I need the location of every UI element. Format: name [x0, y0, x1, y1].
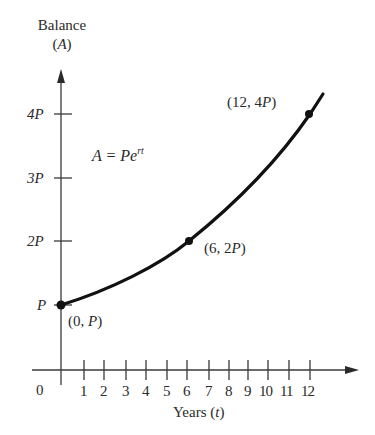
paren-close: ) — [67, 36, 72, 52]
chart-canvas — [0, 0, 375, 435]
y-tick-label-2P: 2P — [27, 234, 44, 249]
pt12-var: P — [262, 94, 271, 110]
x-tick-label-8: 8 — [225, 384, 233, 399]
point-6-2P — [185, 237, 193, 245]
point-0-P — [57, 301, 66, 310]
y-axis-variable: (A) — [32, 37, 92, 52]
x-tick-label-9: 9 — [244, 384, 252, 399]
formula-exponent: rt — [137, 145, 144, 156]
x-tick-label-11: 11 — [280, 384, 292, 399]
x-tick-label-3: 3 — [122, 384, 130, 399]
y-axis-arrow-icon — [57, 69, 65, 83]
point-label-0-P: (0, P) — [68, 314, 102, 329]
point-label-6-2P: (6, 2P) — [204, 241, 246, 256]
y-axis-title: Balance — [32, 18, 92, 33]
point-label-12-4P: (12, 4P) — [227, 95, 276, 110]
formula-base: A = Pe — [92, 147, 137, 164]
y-tick-label-3P: 3P — [27, 171, 44, 186]
origin-label: 0 — [36, 383, 44, 398]
formula-label: A = Pert — [92, 146, 144, 164]
y-axis-title-text: Balance — [38, 17, 86, 33]
pt6-close: ) — [241, 240, 246, 256]
pt12-text: (12, 4 — [227, 94, 262, 110]
x-tick-label-10: 10 — [259, 384, 272, 399]
y-variable: A — [57, 36, 66, 52]
pt0-var: P — [88, 313, 97, 329]
x-tick-label-4: 4 — [142, 384, 150, 399]
x-tick-label-12: 12 — [301, 384, 314, 399]
pt6-var: P — [232, 240, 241, 256]
x-tick-label-7: 7 — [205, 384, 213, 399]
x-axis-title: Years (t) — [173, 405, 224, 420]
x-tick-label-5: 5 — [163, 384, 171, 399]
pt0-text: (0, — [68, 313, 88, 329]
x-paren-close: ) — [219, 404, 224, 420]
x-tick-label-6: 6 — [183, 384, 191, 399]
y-ticks — [54, 114, 72, 305]
x-tick-label-1: 1 — [80, 384, 88, 399]
x-axis-arrow-icon — [345, 366, 359, 374]
pt12-close: ) — [271, 94, 276, 110]
y-tick-label-P: P — [37, 298, 46, 313]
x-tick-label-2: 2 — [100, 384, 108, 399]
exponential-curve — [61, 94, 323, 305]
y-tick-label-4P: 4P — [27, 107, 44, 122]
point-12-4P — [305, 110, 313, 118]
pt6-text: (6, 2 — [204, 240, 232, 256]
x-axis-title-text: Years ( — [173, 404, 215, 420]
pt0-close: ) — [97, 313, 102, 329]
